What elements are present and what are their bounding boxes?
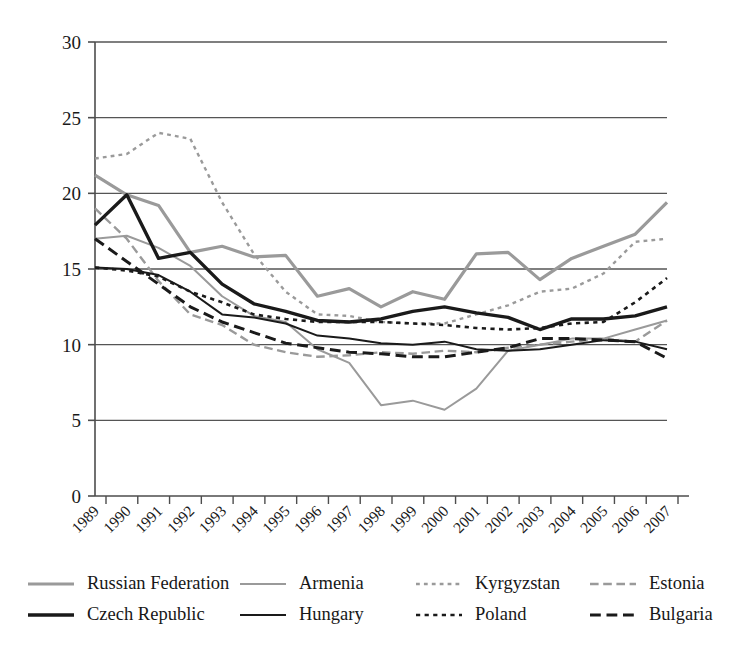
legend-item-bulgaria[interactable]: Bulgaria <box>590 605 740 624</box>
legend-swatch-icon <box>416 577 462 591</box>
chart-legend: Russian FederationArmeniaKyrgyzstanEston… <box>28 568 740 630</box>
x-tick-label: 1996 <box>291 502 325 536</box>
legend-label: Poland <box>475 605 526 624</box>
legend-swatch-icon <box>28 577 74 591</box>
y-tick-label: 30 <box>62 32 81 53</box>
y-tick-label: 0 <box>72 486 82 507</box>
legend-item-armenia[interactable]: Armenia <box>240 574 416 593</box>
series-line-czech-republic <box>95 195 667 330</box>
x-tick-label: 1993 <box>195 502 229 536</box>
legend-label: Hungary <box>299 605 364 624</box>
chart-figure: 051015202530 198919901991199219931994199… <box>0 0 754 672</box>
grid-lines <box>95 42 667 420</box>
x-tick-labels: 1989199019911992199319941995199619971998… <box>68 502 674 536</box>
legend-label: Estonia <box>649 574 705 593</box>
x-tick-label: 2002 <box>481 502 515 536</box>
legend-swatch-icon <box>28 608 74 622</box>
x-tick-label: 1989 <box>68 502 102 536</box>
legend-swatch-icon <box>240 577 286 591</box>
x-tick-label: 1995 <box>259 502 293 536</box>
legend-swatch-icon <box>240 608 286 622</box>
y-axis <box>88 42 95 496</box>
y-tick-labels: 051015202530 <box>62 32 81 507</box>
y-tick-label: 20 <box>62 183 81 204</box>
legend-row: Russian FederationArmeniaKyrgyzstanEston… <box>28 568 740 599</box>
x-tick-label: 1999 <box>386 502 420 536</box>
legend-label: Armenia <box>299 574 364 593</box>
y-tick-label: 25 <box>62 108 81 129</box>
legend-label: Kyrgyzstan <box>475 574 560 593</box>
series-line-bulgaria <box>95 239 667 359</box>
legend-swatch-icon <box>590 577 636 591</box>
x-tick-label: 2004 <box>545 502 579 536</box>
legend-label: Bulgaria <box>649 605 713 624</box>
y-tick-label: 10 <box>62 335 81 356</box>
legend-row: Czech RepublicHungaryPolandBulgaria <box>28 599 740 630</box>
legend-item-russian-federation[interactable]: Russian Federation <box>28 574 240 593</box>
legend-item-poland[interactable]: Poland <box>416 605 590 624</box>
x-tick-label: 2001 <box>450 502 484 536</box>
x-tick-label: 1990 <box>100 502 134 536</box>
data-series-group <box>95 133 667 410</box>
legend-label: Russian Federation <box>87 574 229 593</box>
legend-item-czech-republic[interactable]: Czech Republic <box>28 605 240 624</box>
x-tick-label: 2006 <box>608 502 642 536</box>
y-tick-label: 5 <box>72 410 82 431</box>
x-tick-label: 2000 <box>418 502 452 536</box>
legend-item-hungary[interactable]: Hungary <box>240 605 416 624</box>
legend-swatch-icon <box>416 608 462 622</box>
legend-item-estonia[interactable]: Estonia <box>590 574 740 593</box>
x-tick-label: 1997 <box>322 502 356 536</box>
x-tick-label: 2003 <box>513 502 547 536</box>
x-tick-label: 2005 <box>577 502 611 536</box>
x-tick-label: 1998 <box>354 502 388 536</box>
series-line-estonia <box>95 208 667 356</box>
x-tick-label: 2007 <box>640 502 674 536</box>
legend-label: Czech Republic <box>87 605 205 624</box>
x-tick-label: 1991 <box>132 502 166 536</box>
y-tick-label: 15 <box>62 259 81 280</box>
legend-item-kyrgyzstan[interactable]: Kyrgyzstan <box>416 574 590 593</box>
x-tick-label: 1992 <box>164 502 198 536</box>
legend-swatch-icon <box>590 608 636 622</box>
x-tick-label: 1994 <box>227 502 261 536</box>
series-line-kyrgyzstan <box>95 133 667 324</box>
